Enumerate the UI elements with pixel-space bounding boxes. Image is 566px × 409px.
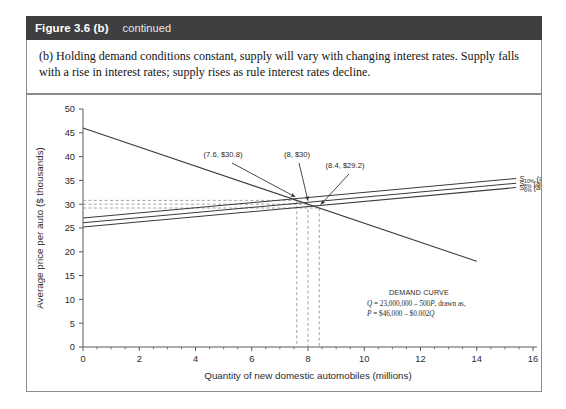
equilibrium-label: (8.4, $29.2) <box>326 161 365 170</box>
chart-curves <box>83 128 516 261</box>
x-tick-label: 14 <box>472 354 482 364</box>
figure-caption-box: (b) Holding demand conditions constant, … <box>26 40 542 94</box>
y-tick-label: 35 <box>65 176 75 186</box>
supply-curve-labels: S10% (at 10 percent interest)S8% (at 8 p… <box>519 174 541 193</box>
equilibrium-labels: (7.6, $30.8)(8, $30)(8.4, $29.2) <box>204 150 365 170</box>
y-tick-label: 50 <box>65 104 75 114</box>
figure-header: Figure 3.6 (b) continued <box>26 16 542 40</box>
x-axis-ticks: 0246810121416 <box>80 347 538 364</box>
supply-curve <box>83 178 516 218</box>
demand-curve-annotation-title: DEMAND CURVE <box>389 288 449 297</box>
chart-panel: 05101520253035404550 0246810121416 (7.6,… <box>26 94 542 392</box>
y-tick-label: 5 <box>70 319 75 329</box>
x-tick-label: 4 <box>193 354 198 364</box>
y-tick-label: 40 <box>65 152 75 162</box>
demand-curve-equation-line1: Q = 23,000,000 – 500P, drawn as, <box>367 300 466 308</box>
demand-curve-annotation: DEMAND CURVE Q = 23,000,000 – 500P, draw… <box>366 288 466 318</box>
y-tick-label: 20 <box>65 247 75 257</box>
eq-body-1: = 23,000,000 – 500 <box>372 300 430 308</box>
demand-curve-equation-line2: P = $46,000 – $0.002Q <box>366 310 435 318</box>
figure-continued-label: continued <box>123 22 172 34</box>
x-tick-label: 0 <box>80 354 85 364</box>
x-tick-label: 16 <box>528 354 538 364</box>
y-axis-ticks: 05101520253035404550 <box>65 104 83 352</box>
eq-body-2: = $46,000 – $0.002 <box>371 310 429 318</box>
y-tick-label: 25 <box>65 223 75 233</box>
supply-curve-suffix: (at 6 percent interest) <box>532 183 541 192</box>
x-tick-label: 8 <box>305 354 310 364</box>
y-axis-title: Average price per auto ($ thousands) <box>34 147 45 309</box>
x-axis-title: Quantity of new domestic automobiles (mi… <box>204 370 411 381</box>
supply-curve <box>83 188 516 228</box>
x-tick-label: 12 <box>415 354 425 364</box>
figure-number: Figure 3.6 (b) <box>35 22 109 34</box>
y-tick-label: 15 <box>65 271 75 281</box>
equilibrium-label: (7.6, $30.8) <box>204 150 243 159</box>
y-tick-label: 30 <box>65 200 75 210</box>
supply-demand-chart: 05101520253035404550 0246810121416 (7.6,… <box>27 95 541 391</box>
figure-caption-text: (b) Holding demand conditions constant, … <box>39 49 529 80</box>
figure-container: Figure 3.6 (b) continued (b) Holding dem… <box>26 16 542 392</box>
y-tick-label: 0 <box>70 342 75 352</box>
supply-curve <box>83 183 516 223</box>
guide-lines <box>83 200 319 347</box>
equilibrium-label: (8, $30) <box>284 150 311 159</box>
x-tick-label: 10 <box>359 354 369 364</box>
chart-axes <box>83 109 537 347</box>
demand-curve <box>83 128 477 261</box>
equilibrium-arrow <box>232 163 295 197</box>
eq-tail-1: , drawn as, <box>435 300 466 308</box>
x-tick-label: 2 <box>137 354 142 364</box>
equilibrium-arrow <box>299 163 308 201</box>
y-tick-label: 45 <box>65 128 75 138</box>
x-tick-label: 6 <box>249 354 254 364</box>
eq-var-q2: Q <box>429 310 435 318</box>
y-tick-label: 10 <box>65 295 75 305</box>
